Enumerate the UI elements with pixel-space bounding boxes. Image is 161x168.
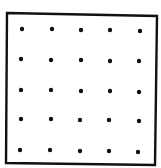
grid-dot-r2-c2 [49, 58, 53, 62]
grid-dot-r1-c1 [20, 27, 24, 31]
dot-grid [18, 27, 142, 154]
grid-dot-r5-c3 [78, 149, 82, 153]
grid-dot-r1-c2 [50, 27, 54, 31]
grid-dot-r3-c2 [49, 88, 53, 92]
grid-dot-r5-c4 [107, 149, 111, 153]
grid-dot-r5-c2 [48, 148, 52, 152]
grid-dot-r5-c1 [18, 148, 22, 152]
grid-dot-r5-c5 [136, 150, 140, 154]
grid-dot-r4-c4 [107, 118, 111, 122]
grid-dot-r2-c5 [137, 59, 141, 63]
grid-dot-r2-c4 [108, 59, 112, 63]
grid-dot-r1-c5 [138, 29, 142, 33]
grid-dot-r3-c4 [108, 89, 112, 93]
grid-dot-r3-c1 [19, 88, 23, 92]
grid-dot-r4-c3 [78, 118, 82, 122]
grid-dot-r4-c5 [137, 119, 141, 123]
grid-dot-r3-c3 [79, 89, 83, 93]
grid-dot-r4-c1 [19, 117, 23, 121]
dot-grid-diagram [0, 0, 161, 168]
grid-dot-r4-c2 [49, 117, 53, 121]
grid-dot-r3-c5 [137, 90, 141, 94]
grid-dot-r2-c3 [79, 58, 83, 62]
grid-dot-r1-c4 [108, 28, 112, 32]
grid-dot-r2-c1 [19, 57, 23, 61]
grid-dot-r1-c3 [79, 28, 83, 32]
